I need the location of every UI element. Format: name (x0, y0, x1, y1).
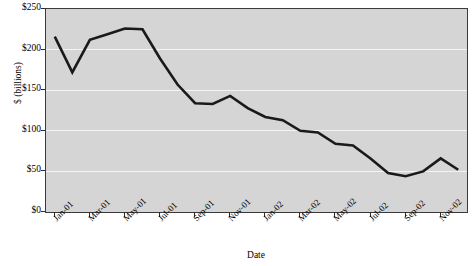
data-series-layer (46, 9, 467, 212)
chart-figure: $0$50$100$150$200$250 $ (billions) Jan-0… (0, 0, 474, 266)
x-axis-title: Date (45, 250, 467, 260)
y-tick-label: $50 (1, 165, 41, 175)
y-tick-label: $0 (1, 206, 41, 216)
line-series (46, 9, 467, 212)
y-axis-title: $ (billions) (13, 27, 23, 139)
y-tick-label: $250 (1, 3, 41, 13)
plot-area (45, 8, 468, 213)
